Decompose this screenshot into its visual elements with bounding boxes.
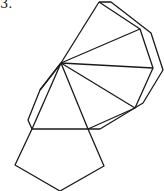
net-diagram [0, 0, 164, 191]
pentagon-face [15, 129, 104, 191]
